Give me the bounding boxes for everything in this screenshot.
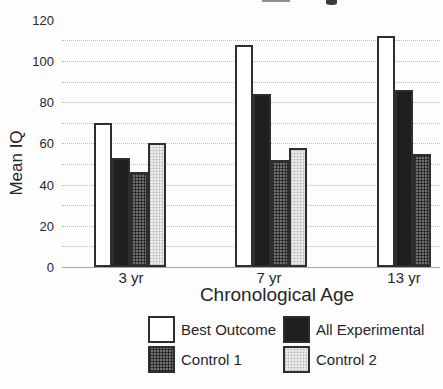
bar-control-2: [148, 143, 166, 267]
x-tick-label: 3 yr: [118, 269, 143, 286]
bar-best-outcome: [377, 36, 395, 267]
iq-bar-chart-figure: 020406080100120 Mean IQ 3 yr7 yr13 yr Ch…: [0, 0, 443, 389]
cropped-title-fragment-right: [326, 0, 337, 5]
legend-label: Control 2: [316, 346, 377, 373]
legend-swatch-all-experimental: [283, 316, 310, 343]
y-tick-label: 120: [10, 14, 54, 27]
legend-swatch-control-1: [148, 346, 175, 373]
bar-all-experimental: [112, 158, 130, 267]
y-tick-label: 100: [10, 55, 54, 68]
legend-swatch-best-outcome: [148, 316, 175, 343]
legend-swatch-control-2: [283, 346, 310, 373]
legend-label: Best Outcome: [181, 316, 276, 343]
legend-label: All Experimental: [316, 316, 424, 343]
x-tick-label: 13 yr: [387, 269, 420, 286]
x-axis-line: [62, 267, 440, 268]
y-axis-title: Mean IQ: [7, 130, 27, 195]
x-axis-title: Chronological Age: [200, 284, 354, 306]
bar-best-outcome: [94, 123, 112, 267]
cropped-title-fragment-left: [262, 0, 290, 2]
y-tick-label: 80: [10, 96, 54, 109]
bar-control-1: [130, 172, 148, 267]
y-tick-label: 20: [10, 220, 54, 233]
y-tick-label: 0: [10, 261, 54, 274]
bar-best-outcome: [235, 45, 253, 267]
legend-label: Control 1: [181, 346, 242, 373]
bar-control-1: [413, 154, 431, 267]
bar-all-experimental: [395, 90, 413, 267]
bar-control-1: [271, 160, 289, 267]
bar-all-experimental: [253, 94, 271, 267]
bar-control-2: [289, 148, 307, 267]
